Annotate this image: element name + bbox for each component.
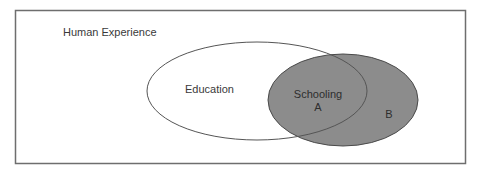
region-b-label: B <box>385 108 392 120</box>
schooling-label: Schooling <box>294 88 342 100</box>
region-a-label: A <box>314 101 321 113</box>
venn-diagram: Human Experience Education Schooling A B <box>0 0 482 172</box>
education-label: Education <box>185 83 234 95</box>
schooling-set-ellipse <box>268 54 418 146</box>
human-experience-label: Human Experience <box>63 26 157 38</box>
